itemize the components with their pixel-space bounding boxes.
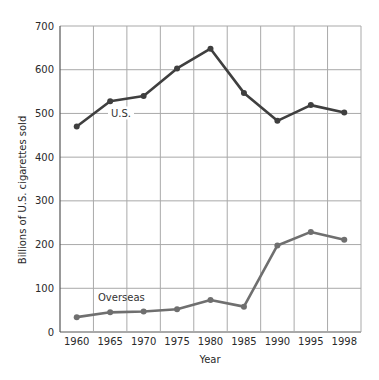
data-point [208,46,214,52]
data-point [274,242,280,248]
y-tick-label: 600 [35,64,54,75]
data-point [141,93,147,99]
data-point [308,229,314,235]
data-point [74,314,80,320]
x-tick-label: 1998 [332,336,357,347]
data-point [107,98,113,104]
data-point [241,90,247,96]
series-label-us: U.S. [111,108,131,119]
series-labels: U.S.Overseas [98,106,145,303]
y-tick-label: 0 [48,327,54,338]
x-tick-label: 1970 [131,336,156,347]
x-tick-label: 1990 [265,336,290,347]
data-point [74,124,80,130]
y-tick-label: 700 [35,21,54,32]
y-axis-label: Billions of U.S. cigarettes sold [17,116,28,264]
series-label-overseas: Overseas [98,292,145,303]
x-tick-label: 1965 [97,336,122,347]
data-point [107,309,113,315]
data-point [174,306,180,312]
data-point [241,304,247,310]
data-point [341,237,347,243]
y-tick-label: 500 [35,108,54,119]
data-point [341,110,347,116]
data-point [141,308,147,314]
x-axis-label: Year [198,354,221,365]
data-point [208,297,214,303]
y-tick-label: 400 [35,152,54,163]
x-tick-label: 1975 [164,336,189,347]
grid-lines [60,26,361,332]
y-axis-ticks: 0100200300400500600700 [35,21,54,338]
x-tick-label: 1960 [64,336,89,347]
series-lines [74,46,348,320]
x-tick-label: 1985 [231,336,256,347]
line-chart: 0100200300400500600700 19601965197019751… [0,0,379,380]
y-tick-label: 100 [35,283,54,294]
x-tick-label: 1980 [198,336,223,347]
y-tick-label: 200 [35,239,54,250]
x-tick-label: 1995 [298,336,323,347]
data-point [174,65,180,71]
data-point [308,102,314,108]
x-axis-ticks: 196019651970197519801985199019951998 [64,336,357,347]
data-point [274,118,280,124]
y-tick-label: 300 [35,195,54,206]
